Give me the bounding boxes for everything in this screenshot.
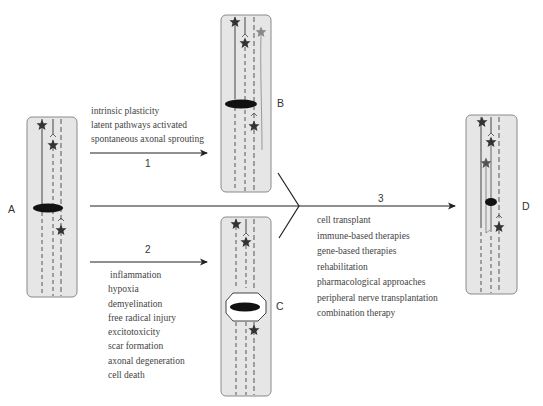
list-item: cell death xyxy=(108,368,185,382)
list-item: intrinsic plasticity xyxy=(91,104,204,118)
arrow-2-causes: inflammation hypoxia demyelination free … xyxy=(108,268,185,382)
list-item: demyelination xyxy=(108,297,185,311)
list-item: combination therapy xyxy=(317,306,438,322)
lesion xyxy=(225,100,257,109)
lesion xyxy=(230,303,260,312)
list-item: pharmacological approaches xyxy=(317,275,438,291)
panel-label-d: D xyxy=(522,200,530,212)
panel-b xyxy=(221,15,271,192)
arrow-number-2: 2 xyxy=(145,244,151,255)
arrow-number-1: 1 xyxy=(145,158,151,169)
list-item: cell transplant xyxy=(317,213,438,229)
panel-label-a: A xyxy=(8,203,15,215)
list-item: spontaneous axonal sprouting xyxy=(91,132,204,146)
panel-label-b: B xyxy=(277,97,284,109)
list-item: rehabilitation xyxy=(317,260,438,276)
panel-a xyxy=(27,117,77,297)
panel-c xyxy=(221,217,271,396)
list-item: hypoxia xyxy=(108,282,185,296)
list-item: immune-based therapies xyxy=(317,229,438,245)
lesion xyxy=(33,204,63,213)
list-item: axonal degeneration xyxy=(108,354,185,368)
list-item: free radical injury xyxy=(108,311,185,325)
list-item: gene-based therapies xyxy=(317,244,438,260)
list-item: peripheral nerve transplantation xyxy=(317,291,438,307)
list-item: inflammation xyxy=(108,268,185,282)
arrow-1-causes: intrinsic plasticity latent pathways act… xyxy=(91,104,204,146)
panel-label-c: C xyxy=(276,300,284,312)
list-item: latent pathways activated xyxy=(91,118,204,132)
list-item: scar formation xyxy=(108,339,185,353)
arrow-number-3: 3 xyxy=(378,193,384,204)
lesion xyxy=(485,198,497,206)
arrow-3-therapies: cell transplant immune-based therapies g… xyxy=(317,213,438,322)
list-item: excitotoxicity xyxy=(108,325,185,339)
panel-d xyxy=(466,115,517,294)
